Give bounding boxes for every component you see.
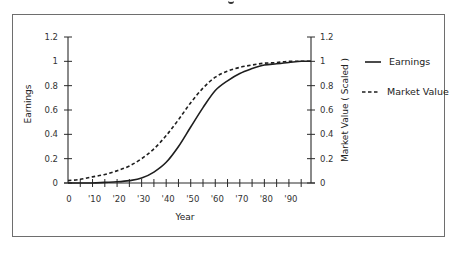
x-tick-label: '10 (88, 194, 101, 204)
chart-canvas: 000.20.20.40.40.60.60.80.8111.21.20'10'2… (0, 0, 457, 253)
x-tick-label: '60 (211, 194, 224, 204)
data-series (68, 61, 311, 183)
x-axis-title: Year (174, 212, 194, 222)
x-tick-label: 0 (66, 194, 71, 204)
series-line-earnings (68, 61, 311, 183)
legend-label-market-value: Market Value (387, 86, 449, 97)
y-tick-label-right: 1 (320, 56, 325, 66)
legend-item-earnings: Earnings (365, 56, 430, 67)
y-tick-label-right: 0.8 (320, 81, 334, 91)
y-tick-label-left: 1.2 (44, 32, 58, 42)
y-tick-label-left: 0.2 (44, 154, 58, 164)
y-tick-label-left: 1 (53, 56, 58, 66)
x-tick-label: '90 (284, 194, 297, 204)
legend-label-earnings: Earnings (389, 56, 430, 67)
y-tick-label-right: 0 (320, 178, 325, 188)
y-axis-title-left: Earnings (23, 84, 33, 123)
y-tick-label-right: 1.2 (320, 32, 334, 42)
y-axis-title-right: Market Value ( Scaled ) (340, 58, 350, 162)
y-tick-label-left: 0 (53, 178, 58, 188)
x-tick-label: '70 (235, 194, 248, 204)
y-tick-label-left: 0.6 (44, 105, 58, 115)
legend-item-market-value: Market Value (362, 86, 449, 97)
y-tick-label-right: 0.4 (320, 129, 334, 139)
y-tick-label-left: 0.8 (44, 81, 58, 91)
x-tick-label: '80 (260, 194, 273, 204)
legend: Earnings Market Value (362, 56, 449, 97)
series-line-market-value (68, 61, 311, 180)
y-tick-label-right: 0.6 (320, 105, 334, 115)
x-tick-label: '40 (162, 194, 175, 204)
y-tick-label-left: 0.4 (44, 129, 58, 139)
y-tick-label-right: 0.2 (320, 154, 334, 164)
x-tick-label: '30 (137, 194, 150, 204)
x-tick-label: '20 (113, 194, 126, 204)
x-tick-label: '50 (186, 194, 199, 204)
